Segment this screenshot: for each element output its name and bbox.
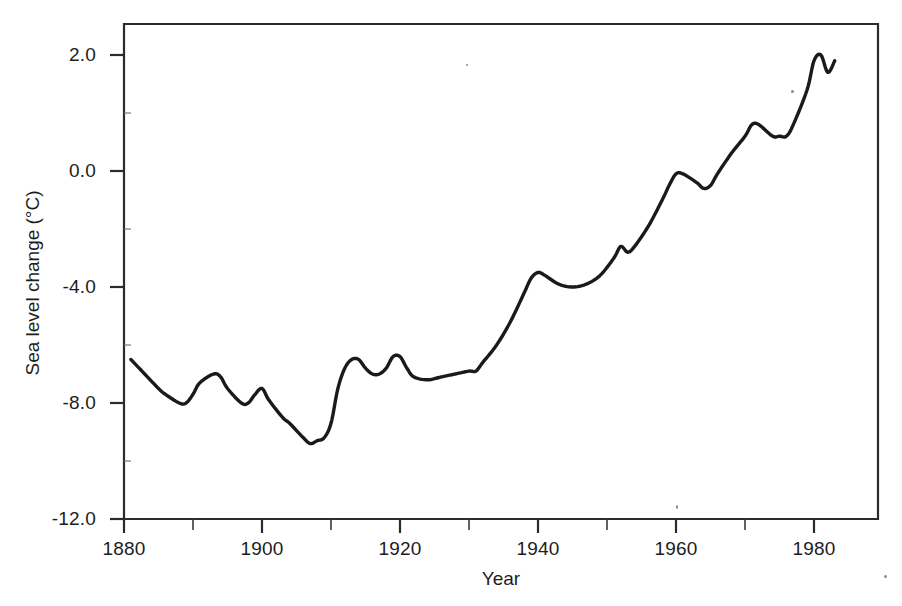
- y-axis-major-ticks: [110, 55, 124, 519]
- x-tick-label-1920: 1920: [378, 538, 421, 560]
- x-axis-minor-ticks: [193, 519, 745, 530]
- y-tick-label-0-0: 0.0: [26, 160, 96, 182]
- scan-speck: [791, 90, 794, 93]
- x-axis-title: Year: [482, 568, 520, 590]
- y-tick-label-2-0: 2.0: [26, 44, 96, 66]
- x-tick-label-1880: 1880: [102, 538, 145, 560]
- scan-speck: [676, 505, 678, 509]
- plot-frame: [124, 24, 878, 519]
- y-axis-title: Sea level change (°C): [22, 190, 44, 375]
- scan-speck: [466, 64, 468, 66]
- x-tick-label-1900: 1900: [240, 538, 283, 560]
- x-tick-label-1940: 1940: [516, 538, 559, 560]
- scan-speck: [884, 575, 887, 578]
- y-tick-label-minus-12-0: -12.0: [18, 508, 96, 530]
- x-tick-label-1960: 1960: [654, 538, 697, 560]
- plot-border: [124, 24, 878, 519]
- data-series-line: [131, 54, 835, 443]
- x-tick-label-1980: 1980: [792, 538, 835, 560]
- chart-plot-area: [0, 0, 902, 606]
- y-tick-label-minus-8-0: -8.0: [26, 392, 96, 414]
- chart-figure: 2.0 0.0 -4.0 -8.0 -12.0 1880 1900 1920 1…: [0, 0, 902, 606]
